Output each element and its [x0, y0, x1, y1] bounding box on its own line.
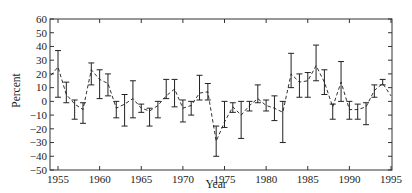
y-tick-label: −20: [30, 123, 48, 135]
y-tick-label: −30: [30, 136, 48, 148]
y-tick-label: 0: [42, 95, 48, 107]
y-tick-label: −10: [30, 109, 48, 121]
y-tick-label: 30: [36, 54, 48, 66]
y-axis-title: Percent: [10, 72, 22, 107]
x-tick-label: 1960: [89, 173, 112, 185]
x-tick-label: 1965: [130, 173, 153, 185]
x-tick-label: 1955: [47, 173, 70, 185]
x-axis-title: Year: [205, 178, 226, 190]
x-tick-label: 1990: [338, 173, 361, 185]
x-tick-label: 1985: [297, 173, 320, 185]
x-tick-label: 1995: [380, 173, 403, 185]
time-series-chart: 6050403020100−10−20−30−40−50 19551960196…: [0, 0, 412, 193]
y-tick-label: 20: [36, 68, 48, 80]
x-tick-label: 1970: [172, 173, 195, 185]
y-axis-tick-labels: 6050403020100−10−20−30−40−50: [30, 13, 48, 176]
y-tick-label: 50: [36, 27, 48, 39]
error-bars: [55, 45, 386, 156]
x-tick-label: 1980: [255, 173, 278, 185]
series-line: [51, 66, 391, 142]
y-tick-label: −50: [30, 164, 48, 176]
y-tick-label: −40: [30, 150, 48, 162]
y-tick-label: 40: [36, 40, 48, 52]
y-tick-label: 60: [36, 13, 48, 25]
y-tick-label: 10: [36, 81, 48, 93]
